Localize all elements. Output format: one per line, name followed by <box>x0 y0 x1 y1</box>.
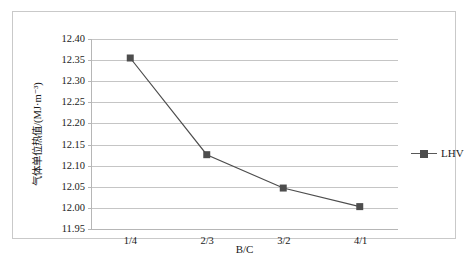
legend-square-icon <box>420 150 428 158</box>
x-axis-title: B/C <box>91 244 398 255</box>
data-point-marker <box>280 185 287 192</box>
y-tick-label: 12.30 <box>61 76 85 87</box>
chart-figure: 12.4012.3512.3012.2512.2012.1512.1012.05… <box>0 0 469 266</box>
y-tick-label: 12.25 <box>61 97 85 108</box>
series-markers-lhv <box>127 55 363 211</box>
data-point-marker <box>356 203 363 210</box>
y-tick-label: 12.40 <box>61 34 85 45</box>
series-layer <box>92 39 398 229</box>
y-tick-label: 12.05 <box>61 182 85 193</box>
chart-legend: LHV <box>411 148 464 159</box>
legend-label-lhv: LHV <box>441 148 464 159</box>
chart-frame: 12.4012.3512.3012.2512.2012.1512.1012.05… <box>12 11 456 239</box>
y-tick-label: 12.35 <box>61 55 85 66</box>
y-tick-label: 12.15 <box>61 139 85 150</box>
legend-marker-lhv <box>411 149 437 158</box>
y-tick-label: 12.10 <box>61 160 85 171</box>
plot-area: 12.4012.3512.3012.2512.2012.1512.1012.05… <box>91 39 398 229</box>
y-tick-label: 12.20 <box>61 118 85 129</box>
series-line-lhv <box>130 58 360 207</box>
data-point-marker <box>127 55 134 62</box>
y-tick-mark <box>88 229 92 230</box>
y-tick-label: 12.00 <box>61 203 85 214</box>
data-point-marker <box>203 151 210 158</box>
gridline <box>92 229 398 230</box>
y-tick-label: 11.95 <box>62 224 85 235</box>
y-axis-title: 气体单位热值/(MJ·m⁻³) <box>31 39 45 229</box>
